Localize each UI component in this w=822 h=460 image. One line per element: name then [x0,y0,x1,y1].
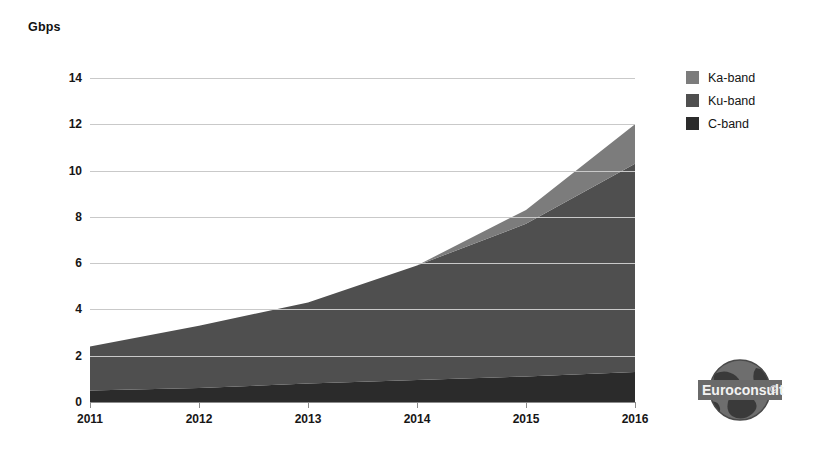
x-axis-tick-mark [417,402,418,408]
y-axis-tick-label: 0 [34,395,82,409]
legend-item-c-band[interactable]: C-band [686,112,816,135]
y-axis-title: Gbps [28,20,61,34]
gridline [90,217,635,218]
x-axis-tick-marks [90,402,635,409]
gridline [90,309,635,310]
gridline [90,124,635,125]
y-axis-tick-label: 4 [34,302,82,316]
legend-item-label: C-band [708,117,749,131]
x-axis-tick-mark [199,402,200,408]
x-axis-tick-label: 2011 [77,412,103,426]
x-axis-tick-label: 2016 [622,412,649,426]
legend-item-ka-band[interactable]: Ka-band [686,66,816,89]
legend-swatch-icon [686,94,699,107]
x-axis-tick-mark [90,402,91,408]
y-axis-tick-label: 6 [34,256,82,270]
legend-swatch-icon [686,71,699,84]
legend-item-label: Ka-band [708,71,755,85]
x-axis-tick-labels: 201120122013201420152016 [90,412,635,436]
gridline [90,263,635,264]
legend: Ka-bandKu-bandC-band [686,66,816,135]
x-axis-tick-label: 2013 [295,412,322,426]
y-axis-tick-label: 8 [34,210,82,224]
plot-area [90,78,635,402]
chart-figure: Gbps 02468101214 20112012201320142015201… [0,0,822,460]
x-axis-tick-label: 2014 [404,412,431,426]
y-axis-tick-label: 10 [34,164,82,178]
x-axis-tick-mark [526,402,527,408]
gridline [90,171,635,172]
stacked-area-series [90,78,635,402]
y-axis-tick-label: 14 [34,71,82,85]
x-axis-tick-label: 2015 [513,412,540,426]
watermark-copyright-text: © [770,383,778,395]
x-axis-tick-mark [635,402,636,408]
euroconsult-watermark-logo: Euroconsult © [684,352,796,428]
y-axis-tick-label: 2 [34,349,82,363]
legend-item-label: Ku-band [708,94,755,108]
y-axis-tick-labels: 02468101214 [22,78,82,402]
x-axis-tick-label: 2012 [186,412,213,426]
legend-swatch-icon [686,117,699,130]
gridline [90,356,635,357]
legend-item-ku-band[interactable]: Ku-band [686,89,816,112]
gridline [90,78,635,79]
x-axis-tick-mark [308,402,309,408]
y-axis-tick-label: 12 [34,117,82,131]
